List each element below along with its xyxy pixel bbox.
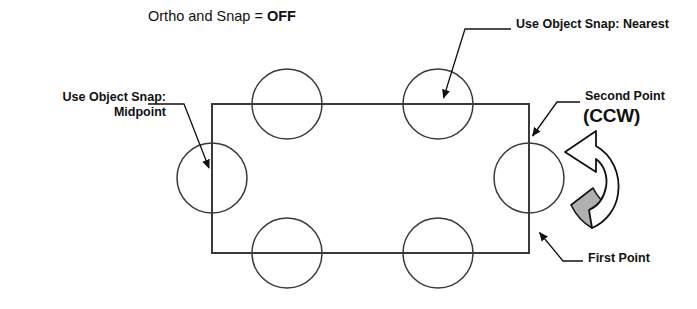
label-ccw: (CCW) — [583, 105, 640, 127]
label-first-point: First Point — [588, 251, 650, 266]
label-object-snap-midpoint: Use Object Snap:Midpoint — [26, 90, 166, 120]
page-title: Ortho and Snap = OFF — [148, 8, 296, 25]
label-object-snap-midpoint-line1: Use Object Snap: — [63, 90, 167, 104]
ccw-rotation-arrow — [565, 131, 619, 228]
ccw-arrow-body — [565, 131, 619, 228]
label-second-point: Second Point — [585, 89, 665, 104]
second-point-leader — [533, 102, 581, 136]
title-prefix-text: Ortho and Snap = — [148, 8, 267, 24]
nearest-leader — [444, 29, 512, 98]
label-object-snap-midpoint-line2: Midpoint — [114, 105, 166, 119]
diagram-canvas: Ortho and Snap = OFF Use Object Snap: Ne… — [0, 0, 697, 309]
first-point-leader — [540, 233, 584, 262]
title-value-text: OFF — [267, 8, 296, 24]
label-object-snap-nearest: Use Object Snap: Nearest — [516, 17, 669, 32]
